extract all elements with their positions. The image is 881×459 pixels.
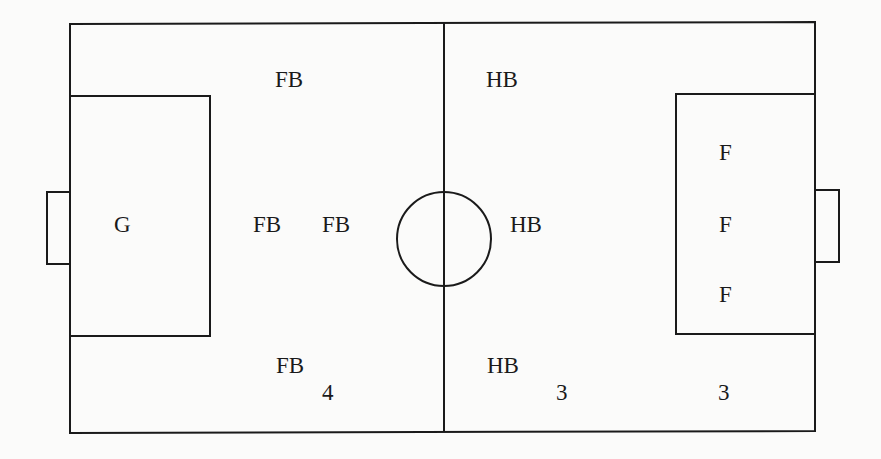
goalkeeper-label: G (114, 213, 131, 236)
halfback-center-label: HB (510, 213, 542, 236)
left-penalty-box (70, 96, 210, 336)
forward-top-label: F (719, 141, 732, 164)
left-goal (47, 192, 70, 264)
field-outline (70, 22, 815, 433)
fullback-bottom-label: FB (276, 354, 304, 377)
right-goal (815, 190, 839, 262)
soccer-field (0, 0, 881, 459)
right-penalty-box (676, 94, 815, 334)
fullback-center-1-label: FB (253, 213, 281, 236)
halfback-top-label: HB (486, 68, 518, 91)
forward-count: 3 (718, 381, 730, 404)
fullback-top-label: FB (275, 68, 303, 91)
forward-center-label: F (719, 213, 732, 236)
fullback-count: 4 (322, 381, 334, 404)
fullback-center-2-label: FB (322, 213, 350, 236)
halfback-count: 3 (556, 381, 568, 404)
forward-bottom-label: F (719, 283, 732, 306)
halfback-bottom-label: HB (487, 354, 519, 377)
